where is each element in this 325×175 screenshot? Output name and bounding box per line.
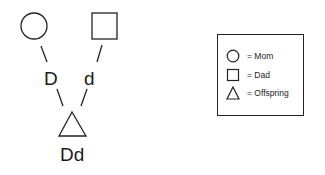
- legend-item-mom: = Mom: [226, 49, 273, 63]
- legend-item-dad: = Dad: [226, 68, 270, 82]
- dad-allele: d: [84, 69, 95, 88]
- mom-allele: D: [44, 69, 58, 88]
- dad-square-icon: [92, 13, 117, 39]
- dad-line-lower: [81, 89, 87, 106]
- legend-label-mom: = Mom: [247, 51, 273, 61]
- mom-line-lower: [57, 89, 63, 106]
- mom-circle-icon: [21, 13, 47, 39]
- circle-icon: [226, 49, 240, 63]
- legend-box: = Mom = Dad = Offspring: [217, 34, 304, 116]
- offspring-genotype: Dd: [60, 145, 84, 164]
- legend-label-dad: = Dad: [247, 70, 270, 80]
- pedigree-diagram: [0, 0, 200, 175]
- mom-line-upper: [41, 46, 47, 62]
- dad-line-upper: [97, 45, 102, 62]
- triangle-icon: [226, 86, 240, 100]
- square-icon: [226, 68, 240, 82]
- legend-item-offspring: = Offspring: [226, 86, 289, 100]
- legend-label-offspring: = Offspring: [247, 88, 289, 98]
- offspring-triangle-icon: [59, 112, 86, 136]
